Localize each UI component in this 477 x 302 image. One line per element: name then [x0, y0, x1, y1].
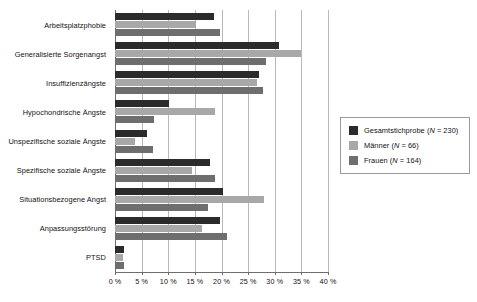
category-label: Arbeitsplatzphobie: [0, 20, 106, 29]
chart-legend: Gesamtstichprobe (N = 230)Männer (N = 66…: [340, 117, 470, 174]
bar-group: [115, 217, 328, 240]
plot-area: [115, 10, 328, 272]
bar-group: [115, 246, 328, 269]
bar: [115, 217, 220, 224]
x-axis-tick: [195, 272, 196, 275]
category-label: Anpassungsstörung: [0, 224, 106, 233]
category-axis-labels: ArbeitsplatzphobieGeneralisierte Sorgena…: [0, 10, 110, 272]
legend-swatch: [349, 141, 358, 150]
bar: [115, 87, 263, 94]
bar: [115, 71, 259, 78]
legend-item: Frauen (N = 164): [349, 156, 462, 165]
bar: [115, 146, 153, 153]
x-axis-tick: [301, 272, 302, 275]
bar-group: [115, 188, 328, 211]
gridline-40: [328, 10, 329, 272]
x-axis-tick-label: 35 %: [293, 277, 310, 286]
legend-swatch: [349, 126, 358, 135]
bar: [115, 100, 169, 107]
category-label: Spezifische soziale Ängste: [0, 166, 106, 175]
x-axis-tick-label: 5 %: [135, 277, 148, 286]
bar: [115, 262, 124, 269]
bar-group: [115, 42, 328, 65]
legend-label: Gesamtstichprobe (N = 230): [364, 126, 458, 135]
x-axis-tick: [248, 272, 249, 275]
category-label: Insuffizienzängste: [0, 78, 106, 87]
bar: [115, 21, 196, 28]
bar: [115, 233, 227, 240]
bar-group: [115, 71, 328, 94]
bar: [115, 116, 154, 123]
bar: [115, 58, 266, 65]
bar-group: [115, 13, 328, 36]
legend-item: Gesamtstichprobe (N = 230): [349, 126, 462, 135]
bar-group: [115, 159, 328, 182]
category-label: PTSD: [0, 253, 106, 262]
category-label: Unspezifische soziale Ängste: [0, 137, 106, 146]
bar: [115, 225, 202, 232]
legend-swatch: [349, 156, 358, 165]
bar: [115, 42, 279, 49]
bar-group: [115, 100, 328, 123]
legend-item: Männer (N = 66): [349, 141, 462, 150]
x-axis-tick: [328, 272, 329, 275]
bar-chart: ArbeitsplatzphobieGeneralisierte Sorgena…: [0, 0, 477, 302]
bar: [115, 159, 210, 166]
category-label: Situationsbezogene Angst: [0, 195, 106, 204]
bar: [115, 254, 123, 261]
x-axis-tick-label: 40 %: [320, 277, 337, 286]
x-axis-tick: [168, 272, 169, 275]
bar: [115, 246, 124, 253]
category-label: Generalisierte Sorgenangst: [0, 49, 106, 58]
bar: [115, 79, 257, 86]
x-axis-tick: [275, 272, 276, 275]
bar: [115, 188, 223, 195]
bar: [115, 13, 214, 20]
x-axis-tick: [142, 272, 143, 275]
bar: [115, 196, 264, 203]
legend-label: Männer (N = 66): [364, 141, 419, 150]
bar: [115, 29, 220, 36]
x-axis-tick-label: 30 %: [266, 277, 283, 286]
x-axis-tick-label: 20 %: [213, 277, 230, 286]
bar: [115, 138, 135, 145]
bar: [115, 204, 208, 211]
bar: [115, 130, 147, 137]
x-axis-tick: [115, 272, 116, 275]
bar-group: [115, 130, 328, 153]
x-axis-tick-label: 15 %: [186, 277, 203, 286]
x-axis-tick-label: 0 %: [109, 277, 122, 286]
bar: [115, 167, 192, 174]
bar: [115, 108, 215, 115]
x-axis-tick: [222, 272, 223, 275]
bar: [115, 50, 301, 57]
category-label: Hypochondrische Ängste: [0, 107, 106, 116]
x-axis-tick-label: 10 %: [160, 277, 177, 286]
x-axis-tick-label: 25 %: [240, 277, 257, 286]
bar: [115, 175, 215, 182]
legend-label: Frauen (N = 164): [364, 156, 421, 165]
